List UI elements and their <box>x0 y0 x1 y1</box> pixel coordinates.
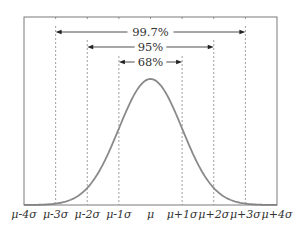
x-tick-label: μ+3σ <box>230 208 261 221</box>
interval-99-7pct: 99.7% <box>56 25 246 39</box>
arrow-right-icon <box>239 30 245 34</box>
interval-95pct: 95% <box>87 40 214 54</box>
arrow-right-icon <box>176 60 182 64</box>
interval-label: 95% <box>138 40 164 54</box>
x-tick-label: μ+2σ <box>198 208 229 221</box>
x-tick-label: μ+4σ <box>262 208 293 221</box>
x-axis-labels: μ-4σμ-3σμ-2σμ-1σμμ+1σμ+2σμ+3σμ+4σ <box>11 208 293 221</box>
x-tick-label: μ+1σ <box>167 208 198 221</box>
arrow-right-icon <box>208 45 214 49</box>
bell-curve-path <box>24 79 277 205</box>
interval-label: 99.7% <box>132 25 169 39</box>
normal-distribution-chart: 68%95%99.7% μ-4σμ-3σμ-2σμ-1σμμ+1σμ+2σμ+3… <box>0 0 306 233</box>
arrow-left-icon <box>119 60 125 64</box>
interval-arrows: 68%95%99.7% <box>56 25 246 69</box>
arrow-left-icon <box>56 30 62 34</box>
x-tick-label: μ-3σ <box>43 208 69 221</box>
bell-curve <box>24 79 277 205</box>
x-tick-label: μ <box>147 208 154 221</box>
x-tick-label: μ-2σ <box>75 208 101 221</box>
interval-68pct: 68% <box>119 55 182 69</box>
arrow-left-icon <box>87 45 93 49</box>
x-tick-label: μ-4σ <box>11 208 37 221</box>
x-tick-label: μ-1σ <box>106 208 132 221</box>
interval-label: 68% <box>138 55 164 69</box>
